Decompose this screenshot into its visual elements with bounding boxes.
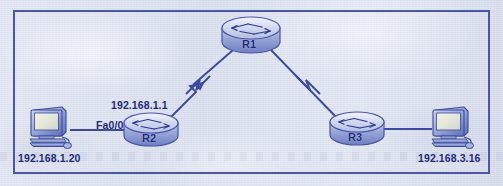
router-r1-label: R1 [242,38,256,50]
interface-label-fa00: Fa0/0 [96,119,123,131]
ip-label-pc-left: 192.168.1.20 [18,152,81,164]
desktop-computer-icon [428,106,480,150]
router-r1[interactable]: R1 [218,14,284,56]
router-r3-label: R3 [348,131,362,143]
ip-label-pc-right: 192.168.3.16 [418,152,481,164]
workstation-pc-right[interactable] [428,106,480,150]
router-r3[interactable]: R3 [327,109,387,149]
desktop-computer-icon [26,106,78,150]
router-icon [121,110,181,150]
router-icon [327,109,387,149]
router-r2-label: R2 [142,132,156,144]
workstation-pc-left[interactable] [26,106,78,150]
nodes-layer: R1 R2 Fa0/0 192.168.1 [0,0,503,186]
diagram-canvas: R1 R2 Fa0/0 192.168.1 [0,0,503,186]
ip-label-r2: 192.168.1.1 [111,99,168,111]
router-r2[interactable]: R2 [121,110,181,150]
